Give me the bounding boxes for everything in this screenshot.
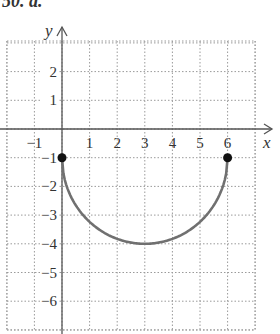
y-tick-label: −3 [41, 207, 57, 223]
x-tick-label: 6 [224, 135, 232, 151]
y-tick-label: −5 [41, 265, 57, 281]
x-tick-label: −1 [26, 135, 42, 151]
y-tick-label: 1 [50, 92, 58, 108]
x-tick-label: 2 [113, 135, 121, 151]
y-tick-label: −6 [41, 293, 57, 309]
tick-labels: −112345621−1−2−3−4−5−6 [26, 63, 231, 310]
x-tick-label: 1 [86, 135, 94, 151]
y-tick-label: −2 [41, 178, 57, 194]
y-tick-label: −4 [41, 236, 57, 252]
semicircle-graph: xy −112345621−1−2−3−4−5−6 [0, 0, 280, 334]
endpoint-dot [223, 153, 232, 162]
x-axis-label: x [262, 133, 271, 152]
endpoint-dot [58, 153, 67, 162]
x-tick-label: 4 [169, 135, 177, 151]
x-tick-label: 5 [196, 135, 204, 151]
x-tick-label: 3 [141, 135, 149, 151]
y-axis-label: y [43, 21, 53, 40]
y-tick-label: 2 [50, 64, 58, 80]
y-tick-label: −1 [41, 150, 57, 166]
